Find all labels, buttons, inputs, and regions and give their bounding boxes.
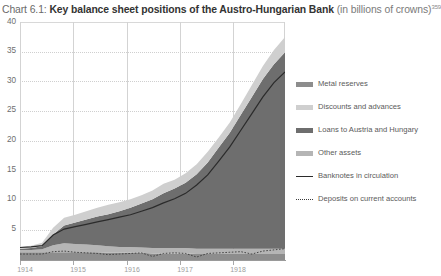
x-tick-1916 bbox=[127, 261, 128, 265]
legend-label-other-assets: Other assets bbox=[318, 147, 361, 159]
legend-label-banknotes-in-circulation: Banknotes in circulation bbox=[318, 170, 398, 182]
legend-item-discounts-and-advances: Discounts and advances bbox=[296, 101, 411, 113]
x-axis-line bbox=[20, 260, 286, 261]
legend-swatch-banknotes-in-circulation bbox=[296, 176, 313, 177]
chart-title-main: Key balance sheet positions of the Austr… bbox=[49, 4, 333, 15]
legend-swatch-other-assets bbox=[296, 151, 313, 156]
legend-label-discounts-and-advances: Discounts and advances bbox=[318, 101, 401, 113]
legend-item-loans-to-austria-and-hungary: Loans to Austria and Hungary bbox=[296, 124, 411, 136]
chart-title: Chart 6.1: Key balance sheet positions o… bbox=[2, 0, 411, 14]
legend-item-banknotes-in-circulation: Banknotes in circulation bbox=[296, 170, 411, 182]
y-axis-label-10: 10 bbox=[0, 195, 16, 203]
plot-area bbox=[20, 22, 285, 260]
area-loans-to-austria-and-hungary bbox=[20, 52, 285, 250]
x-axis-label-1914: 1914 bbox=[17, 266, 33, 274]
legend-label-metal-reserves: Metal reserves bbox=[318, 78, 368, 90]
legend-swatch-loans-to-austria-and-hungary bbox=[296, 128, 313, 133]
footnote-marker: 359 bbox=[431, 4, 441, 10]
x-tick-1915 bbox=[73, 261, 74, 265]
x-tick-1918 bbox=[233, 261, 234, 265]
legend-label-loans-to-austria-and-hungary: Loans to Austria and Hungary bbox=[318, 124, 418, 136]
x-axis-label-1916: 1916 bbox=[124, 266, 140, 274]
stacked-area-plot bbox=[20, 22, 285, 260]
legend-item-other-assets: Other assets bbox=[296, 147, 411, 159]
x-axis-label-1917: 1917 bbox=[177, 266, 193, 274]
legend-swatch-deposits-on-current-accounts bbox=[296, 199, 313, 200]
y-axis-label-15: 15 bbox=[0, 166, 16, 174]
x-tick-1917 bbox=[180, 261, 181, 265]
legend-item-metal-reserves: Metal reserves bbox=[296, 78, 411, 90]
chart-legend: Metal reserves Discounts and advances Lo… bbox=[296, 78, 411, 203]
x-axis-label-1918: 1918 bbox=[230, 266, 246, 274]
x-axis-label-1915: 1915 bbox=[70, 266, 86, 274]
x-tick-1914 bbox=[20, 261, 21, 265]
y-axis-label-35: 35 bbox=[0, 47, 16, 55]
legend-item-deposits-on-current-accounts: Deposits on current accounts bbox=[296, 193, 411, 205]
y-axis-label-25: 25 bbox=[0, 106, 16, 114]
y-axis-label-40: 40 bbox=[0, 18, 16, 26]
chart-number: Chart 6.1: bbox=[2, 4, 47, 15]
chart-title-unit: (in billions of crowns) bbox=[337, 4, 432, 15]
y-axis-label-20: 20 bbox=[0, 136, 16, 144]
legend-swatch-metal-reserves bbox=[296, 82, 313, 87]
legend-swatch-discounts-and-advances bbox=[296, 105, 313, 110]
y-axis-label-5: 5 bbox=[0, 225, 16, 233]
legend-label-deposits-on-current-accounts: Deposits on current accounts bbox=[318, 193, 416, 205]
y-axis-label-30: 30 bbox=[0, 77, 16, 85]
